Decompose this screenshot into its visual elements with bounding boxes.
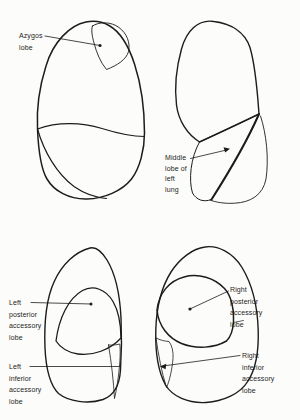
middle-lobe-leader-arrow xyxy=(224,147,231,152)
horizontal-fissure xyxy=(38,124,145,137)
azygos-lobe-region xyxy=(92,23,129,70)
left-lung-panel xyxy=(176,21,268,203)
left-inferior-accessory-label: Left inferior accessory lobe xyxy=(9,361,41,407)
right-posterior-accessory-region xyxy=(157,276,234,348)
left-lung-posterior-panel xyxy=(45,248,122,402)
oblique-fissure xyxy=(38,129,107,199)
left-inferior-accessory-region xyxy=(109,344,121,399)
azygos-leader-dot xyxy=(98,44,101,47)
left-posterior-leader-dot xyxy=(90,303,93,306)
left-posterior-accessory-label: Left posterior accessory lobe xyxy=(9,297,41,343)
right-posterior-leader-dot xyxy=(188,307,191,310)
right-lung-outline xyxy=(37,21,144,199)
right-posterior-leader-line xyxy=(190,291,229,309)
thick-oblique-fissure xyxy=(212,114,260,200)
middle-lobe-leader-line xyxy=(191,150,227,159)
azygos-lobe-label: Azygos lobe xyxy=(19,30,43,53)
right-inferior-leader-line xyxy=(163,356,240,367)
bottom-left-lung-outline xyxy=(45,248,122,402)
left-lung-upper-outline xyxy=(176,21,259,142)
middle-lobe-region xyxy=(191,114,259,201)
right-lung-front-panel xyxy=(37,21,144,199)
middle-lobe-label: Middle lobe of left lung xyxy=(165,153,187,195)
left-lower-lobe-outline xyxy=(210,116,267,203)
right-inferior-accessory-label: Right inferior accessory lobe xyxy=(242,350,274,396)
right-posterior-accessory-label: Right posterior accessory lobe xyxy=(230,284,262,330)
figure-page: Azygos lobe Middle lobe of left lung Lef… xyxy=(0,0,300,420)
azygos-leader-line xyxy=(45,36,100,46)
left-posterior-accessory-region xyxy=(56,288,121,354)
